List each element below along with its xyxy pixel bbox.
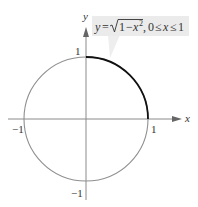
- x-axis-label: x: [184, 112, 190, 124]
- x-axis-arrow-icon: [172, 116, 182, 122]
- y-tick-one: 1: [75, 45, 81, 57]
- eq-le-2: ≤: [170, 20, 177, 34]
- eq-minus: −: [126, 20, 133, 34]
- y-axis-arrow-icon: [83, 27, 89, 37]
- x-tick-one: 1: [151, 123, 157, 135]
- x-tick-neg-one: −1: [12, 123, 24, 135]
- eq-le-1: ≤: [155, 20, 162, 34]
- eq-x: x: [132, 20, 139, 34]
- callout-pointer: [108, 35, 120, 58]
- eq-equals: =: [102, 20, 109, 34]
- highlighted-arc: [86, 57, 148, 119]
- eq-domain-low: 0: [148, 20, 154, 34]
- eq-y: y: [94, 20, 101, 34]
- eq-one: 1: [119, 20, 125, 34]
- y-tick-neg-one: −1: [71, 187, 83, 199]
- eq-comma: ,: [143, 20, 146, 34]
- eq-domain-var: x: [162, 20, 169, 34]
- eq-domain-high: 1: [178, 20, 184, 34]
- unit-circle-diagram: x y −1 1 1 −1 y = 1 − x 2 , 0 ≤ x ≤ 1: [0, 0, 198, 207]
- y-axis-label: y: [82, 10, 88, 22]
